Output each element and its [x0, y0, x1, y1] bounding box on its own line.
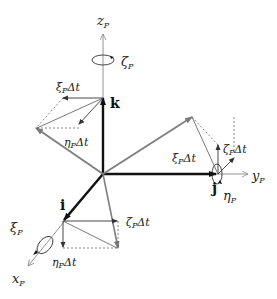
- z-axis-label: zP: [96, 13, 110, 30]
- x-axis-label: xP: [12, 271, 25, 288]
- eta-rotation-label: ηP: [223, 188, 237, 205]
- zeta-rotation-label: ζP: [121, 54, 134, 71]
- rotated-i-vector: [103, 174, 118, 248]
- k-xi-increment-label: ξPΔt: [56, 81, 80, 95]
- k-label: k: [110, 95, 120, 111]
- k-increment-components: [36, 98, 103, 128]
- i-unit-vector: [64, 174, 103, 220]
- xi-rotation-icon: [33, 233, 56, 256]
- rotation-diagram: zP yP xP ζP ηP ξP k j i ξPΔt ηPΔt: [0, 0, 277, 299]
- xi-rotation-label: ξP: [10, 220, 23, 237]
- i-zeta-increment-label: ζPΔt: [126, 216, 150, 230]
- j-label: j: [210, 180, 217, 196]
- j-xi-increment-label: ξPΔt: [172, 152, 196, 166]
- y-axis-label: yP: [251, 168, 265, 185]
- i-eta-increment-label: ηPΔt: [52, 256, 77, 270]
- rotated-k-vector: [36, 128, 103, 174]
- i-label: i: [60, 197, 65, 213]
- k-eta-increment-label: ηPΔt: [64, 136, 89, 150]
- i-increment-components: [63, 221, 118, 248]
- j-zeta-increment-label: ζPΔt: [223, 143, 247, 157]
